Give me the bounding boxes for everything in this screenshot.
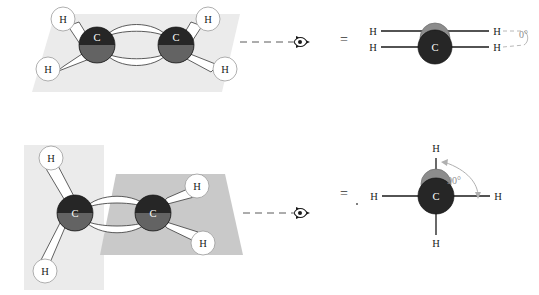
carbon-atom-right: C bbox=[158, 27, 194, 63]
figure-canvas: C C H H H H bbox=[0, 0, 539, 295]
newman-hydrogen-front-right: H bbox=[494, 191, 502, 202]
equals-sign-perpendicular: = bbox=[340, 187, 348, 201]
newman-hydrogen-back-top: H bbox=[432, 143, 440, 154]
hydrogen-label: H bbox=[59, 14, 67, 25]
hydrogen-label: H bbox=[44, 64, 52, 75]
hydrogen-atom-top-left: H bbox=[39, 146, 63, 170]
newman-hydrogen-front-right: H bbox=[493, 42, 501, 53]
carbon-label-left: C bbox=[71, 208, 78, 219]
carbon-atom-left: C bbox=[57, 195, 93, 231]
newman-hydrogen-back-left: H bbox=[369, 26, 377, 37]
carbon-atom-right: C bbox=[135, 195, 171, 231]
hydrogen-label: H bbox=[204, 14, 212, 25]
carbon-atom-left: C bbox=[79, 27, 115, 63]
hydrogen-atom-top-right: H bbox=[196, 7, 220, 31]
carbon-label-right: C bbox=[149, 208, 156, 219]
view-point-dot bbox=[356, 203, 358, 205]
eye-icon bbox=[294, 207, 310, 219]
hydrogen-label: H bbox=[41, 266, 49, 277]
newman-hydrogen-front-left: H bbox=[369, 42, 377, 53]
newman-hydrogen-front-left: H bbox=[370, 191, 378, 202]
dihedral-angle-label-perpendicular: 90° bbox=[447, 176, 461, 186]
newman-projection-perpendicular: C H H H H bbox=[370, 143, 502, 249]
hydrogen-label: H bbox=[199, 238, 207, 249]
carbon-label-right: C bbox=[172, 32, 179, 43]
eye-icon bbox=[294, 36, 310, 48]
hydrogen-atom-top-left: H bbox=[51, 7, 75, 31]
molecular-plane-right-tilted bbox=[100, 174, 243, 255]
hydrogen-atom-bottom-left: H bbox=[33, 259, 57, 283]
angle-ray-lower bbox=[503, 45, 524, 47]
angle-arrow-top bbox=[441, 159, 448, 166]
hydrogen-label: H bbox=[221, 64, 229, 75]
newman-carbon-label: C bbox=[431, 42, 438, 53]
hydrogen-atom-bottom-right: H bbox=[213, 57, 237, 81]
hydrogen-atom-top-right: H bbox=[185, 174, 209, 198]
hydrogen-label: H bbox=[193, 181, 201, 192]
newman-hydrogen-back-right: H bbox=[493, 26, 501, 37]
newman-carbon-label: C bbox=[432, 191, 439, 202]
row-perpendicular-diagram: C C H H H H bbox=[0, 140, 539, 295]
hydrogen-label: H bbox=[47, 153, 55, 164]
hydrogen-atom-bottom-left: H bbox=[36, 57, 60, 81]
newman-projection-eclipsed: C H H H H bbox=[369, 23, 528, 64]
equals-sign-planar: = bbox=[340, 33, 348, 47]
dihedral-angle-label-planar: 0° bbox=[519, 30, 528, 40]
row-planar-diagram: C C H H H H bbox=[0, 0, 539, 120]
hydrogen-atom-bottom-right: H bbox=[191, 231, 215, 255]
carbon-label-left: C bbox=[93, 32, 100, 43]
newman-hydrogen-back-bottom: H bbox=[432, 238, 440, 249]
